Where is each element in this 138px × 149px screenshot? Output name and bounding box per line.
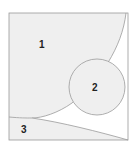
region-1-label: 1 [39, 39, 45, 50]
region-3-shape [9, 117, 128, 140]
region-diagram: 1 2 3 [0, 0, 138, 149]
region-2-label: 2 [92, 82, 98, 93]
region-3-label: 3 [21, 124, 27, 135]
